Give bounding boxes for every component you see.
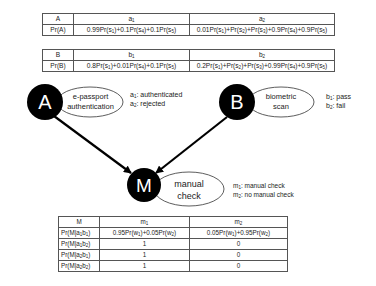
node-m-states: m1: manual check m2: no manual check bbox=[233, 181, 294, 199]
node-m-label-line1: manual bbox=[154, 178, 224, 190]
node-a-states: a1: authenticated a2: rejected bbox=[130, 90, 182, 108]
table-m-m2-value: 0 bbox=[190, 239, 288, 250]
node-m-letter: M bbox=[136, 175, 152, 196]
state-a1: a1: authenticated bbox=[130, 90, 182, 99]
table-m-header-row: M m1 m2 bbox=[59, 217, 288, 228]
edge-b-to-m bbox=[156, 117, 227, 173]
state-m1: m1: manual check bbox=[233, 181, 294, 190]
table-m-m1-value: 0.95Pr(w1)+0.05Pr(w2) bbox=[100, 228, 190, 239]
table-m-header-m1: m1 bbox=[100, 217, 190, 228]
state-b2: b2: fail bbox=[326, 101, 351, 110]
table-row: Pr(M|a1b2) 1 0 bbox=[59, 239, 288, 250]
table-row: Pr(M|a2b1) 1 0 bbox=[59, 250, 288, 261]
node-a-label-line2: authentication bbox=[58, 102, 123, 112]
node-a-label-line1: e-passport bbox=[58, 92, 123, 102]
table-m-row-label: Pr(M|a1b1) bbox=[59, 228, 100, 239]
node-a-letter: A bbox=[38, 91, 52, 113]
table-row: Pr(M|a2b2) 1 0 bbox=[59, 261, 288, 272]
table-m-row-label: Pr(M|a2b1) bbox=[59, 250, 100, 261]
table-m-m2-value: 0 bbox=[190, 250, 288, 261]
node-b-states: b1: pass b2: fail bbox=[326, 92, 351, 110]
state-b1: b1: pass bbox=[326, 92, 351, 101]
node-a-label: e-passport authentication bbox=[58, 92, 123, 112]
table-m-row-label: Pr(M|a2b2) bbox=[59, 261, 100, 272]
table-m-m1-value: 1 bbox=[100, 239, 190, 250]
node-b-label-line1: biometric bbox=[248, 92, 314, 102]
edge-a-to-m bbox=[54, 116, 131, 173]
table-m-cpt: M m1 m2 Pr(M|a1b1) 0.95Pr(w1)+0.05Pr(w2)… bbox=[58, 216, 288, 272]
state-a2: a2: rejected bbox=[130, 99, 182, 108]
table-m-m1-value: 1 bbox=[100, 250, 190, 261]
node-m-label-line2: check bbox=[154, 190, 224, 202]
table-row: Pr(M|a1b1) 0.95Pr(w1)+0.05Pr(w2) 0.05Pr(… bbox=[59, 228, 288, 239]
table-m-m2-value: 0 bbox=[190, 261, 288, 272]
table-m-m1-value: 1 bbox=[100, 261, 190, 272]
table-m-m2-value: 0.05Pr(w1)+0.95Pr(w2) bbox=[190, 228, 288, 239]
table-m-row-label: Pr(M|a1b2) bbox=[59, 239, 100, 250]
node-m-label: manual check bbox=[154, 178, 224, 202]
table-m-header-node: M bbox=[59, 217, 100, 228]
node-b-label: biometric scan bbox=[248, 92, 314, 112]
node-b-label-line2: scan bbox=[248, 102, 314, 112]
table-m-header-m2: m2 bbox=[190, 217, 288, 228]
node-b-letter: B bbox=[230, 91, 243, 113]
state-m2: m2: no manual check bbox=[233, 190, 294, 199]
